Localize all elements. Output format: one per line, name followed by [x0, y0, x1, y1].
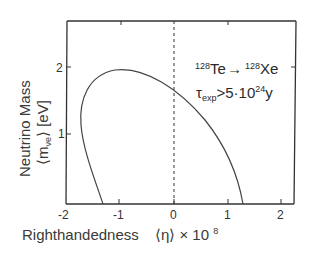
x-tick-label: -2: [58, 208, 69, 222]
lifetime-annotation: τexp>5·1024y: [196, 84, 273, 103]
svg-text:Neutrino Mass: Neutrino Mass: [16, 80, 33, 177]
x-axis-title: Righthandedness ⟨η⟩ × 10 8: [22, 226, 218, 243]
y-axis-title: Neutrino Mass ⟨mνe⟩ [eV]: [16, 80, 53, 177]
plot-frame: [66, 21, 296, 204]
x-tick-label: -1: [113, 208, 124, 222]
x-axis-ticks: [119, 21, 281, 204]
svg-text:⟨mνe⟩ [eV]: ⟨mνe⟩ [eV]: [34, 100, 53, 165]
x-tick-label: 1: [224, 208, 231, 222]
x-tick-label: 0: [170, 208, 177, 222]
y-tick-label: 1: [58, 127, 65, 141]
y-tick-label: 2: [56, 61, 63, 75]
reaction-annotation: 128Te→128Xe: [195, 60, 278, 77]
x-tick-label: 2: [277, 208, 284, 222]
y-axis-ticks: [66, 67, 295, 134]
chart: -2 -1 0 1 2 1 2 Righthandedness ⟨η⟩ × 10…: [0, 0, 313, 259]
